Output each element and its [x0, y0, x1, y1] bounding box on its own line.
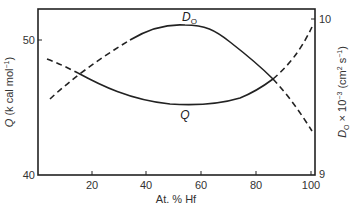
q-curve-dashed-right [273, 27, 312, 79]
y-right-tick-label: 10 [319, 13, 331, 25]
plot-frame [38, 9, 315, 175]
q-curve-dashed-left [47, 59, 78, 73]
x-tick-label: 100 [302, 179, 320, 191]
do-curve-dashed-left [50, 40, 130, 99]
y-left-title-exp: −1 [3, 60, 10, 68]
chart: 20 40 60 80 100 50 40 10 9 At. % Hf Q (k… [0, 0, 354, 210]
y-right-title-mid: × 10 [336, 100, 348, 125]
x-axis-title: At. % Hf [156, 193, 197, 205]
do-curve-dashed-right [273, 79, 312, 131]
y-right-title-close: ) [336, 46, 348, 50]
y-left-title-close: ) [3, 57, 15, 61]
y-right-title-D: D [336, 130, 348, 138]
do-curve-label: DO [182, 10, 197, 26]
x-tick-label: 20 [86, 179, 98, 191]
q-curve-label: Q [180, 108, 189, 122]
y-left-axis-title: Q (k cal mol−1) [3, 57, 15, 127]
x-tick-label: 40 [140, 179, 152, 191]
y-right-title-exp1: −3 [336, 92, 343, 100]
y-right-axis-title: DO × 10−3 (cm2 s−1) [336, 46, 350, 138]
do-label-D: D [182, 10, 191, 24]
do-label-sub: O [191, 17, 197, 26]
y-left-title-text: (k cal mol [3, 68, 15, 118]
x-tick-label: 80 [250, 179, 262, 191]
y-right-tick-label: 9 [319, 168, 325, 180]
y-left-tick-label: 50 [23, 34, 35, 46]
q-curve-solid [78, 73, 273, 105]
y-left-tick-label: 40 [23, 169, 35, 181]
x-tick-label: 60 [195, 179, 207, 191]
y-right-title-units: (cm [336, 70, 348, 91]
y-right-title-exp3: −1 [336, 50, 343, 58]
do-curve-solid [130, 25, 273, 79]
